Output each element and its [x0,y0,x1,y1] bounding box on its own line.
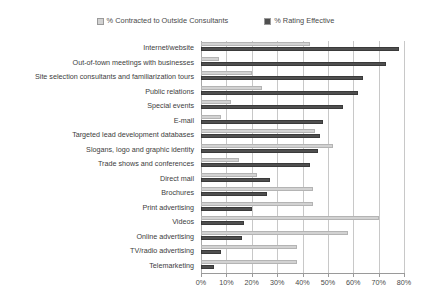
bar-contracted [201,100,231,104]
x-tick-label: 40% [295,279,309,286]
bar-group [201,259,404,274]
bar-rating-effective [201,163,310,167]
legend-label-contracted: % Contracted to Outside Consultants [107,17,229,24]
bar-group [201,201,404,216]
x-tick-10 [226,273,227,277]
category-label: Print advertising [142,204,194,211]
bar-group [201,128,404,143]
bar-contracted [201,216,379,220]
category-label: TV/radio advertising [130,247,194,254]
bar-contracted [201,202,313,206]
category-label: Trade shows and conferences [98,160,194,167]
bar-group [201,70,404,85]
x-axis-tick-labels: 0%10%20%30%40%50%60%70%80% [201,279,404,291]
plot-area [201,41,404,273]
bar-contracted [201,71,252,75]
legend-label-rating-effective: % Rating Effective [274,17,334,24]
bar-rating-effective [201,134,320,138]
legend-swatch-rating-effective [264,18,271,25]
bar-rating-effective [201,47,399,51]
bar-rating-effective [201,91,358,95]
bar-rating-effective [201,62,386,66]
bar-rating-effective [201,120,323,124]
x-tick-40 [303,273,304,277]
bar-contracted [201,187,313,191]
bar-group [201,85,404,100]
bar-group [201,157,404,172]
x-tick-label: 0% [196,279,206,286]
x-tick-label: 50% [321,279,335,286]
category-label: Special events [147,102,194,109]
bar-contracted [201,42,310,46]
bar-rating-effective [201,149,318,153]
x-tick-label: 20% [245,279,259,286]
x-tick-0 [201,273,202,277]
category-label: Internet/website [143,44,194,51]
bar-rating-effective [201,178,270,182]
bar-contracted [201,86,262,90]
bar-group [201,41,404,56]
bar-rating-effective [201,265,214,269]
bar-group [201,99,404,114]
bar-chart: % Contracted to Outside Consultants % Ra… [0,0,431,299]
bar-contracted [201,173,257,177]
category-label: Online advertising [136,233,194,240]
bar-groups [201,41,404,273]
category-label: Telemarketing [149,262,194,269]
x-tick-label: 80% [397,279,411,286]
bar-group [201,215,404,230]
category-label: Public relations [145,88,194,95]
x-tick-label: 30% [270,279,284,286]
bar-group [201,172,404,187]
bar-rating-effective [201,250,221,254]
x-axis-ticks [201,273,404,277]
bar-rating-effective [201,207,252,211]
bar-group [201,56,404,71]
x-tick-70 [379,273,380,277]
category-label: E-mail [174,117,194,124]
x-tick-label: 60% [346,279,360,286]
chart-legend: % Contracted to Outside Consultants % Ra… [0,14,431,28]
category-label: Out-of-town meetings with businesses [73,59,194,66]
bar-contracted [201,158,239,162]
bar-group [201,230,404,245]
x-tick-60 [353,273,354,277]
category-label: Direct mail [160,175,194,182]
bar-rating-effective [201,236,242,240]
category-label: Targeted lead development databases [72,131,194,138]
x-tick-label: 10% [219,279,233,286]
bar-rating-effective [201,105,343,109]
bar-group [201,143,404,158]
x-tick-80 [404,273,405,277]
bar-contracted [201,129,315,133]
bar-contracted [201,144,333,148]
category-axis-labels: Internet/websiteOut-of-town meetings wit… [0,41,198,273]
bar-group [201,244,404,259]
bar-contracted [201,231,348,235]
x-tick-50 [328,273,329,277]
legend-entry-rating-effective: % Rating Effective [264,17,334,24]
bar-rating-effective [201,192,267,196]
category-label: Site selection consultants and familiari… [35,73,194,80]
bar-contracted [201,57,219,61]
bar-rating-effective [201,76,363,80]
category-label: Videos [172,218,194,225]
category-label: Slogans, logo and graphic identity [86,146,194,153]
bar-rating-effective [201,221,244,225]
legend-entry-contracted: % Contracted to Outside Consultants [97,17,229,24]
legend-swatch-contracted [97,18,104,25]
bar-group [201,186,404,201]
bar-contracted [201,260,297,264]
bar-contracted [201,115,221,119]
bar-contracted [201,245,297,249]
x-tick-label: 70% [371,279,385,286]
x-tick-20 [252,273,253,277]
gridline-80 [404,41,405,273]
x-tick-30 [277,273,278,277]
bar-group [201,114,404,129]
category-label: Brochures [161,189,194,196]
